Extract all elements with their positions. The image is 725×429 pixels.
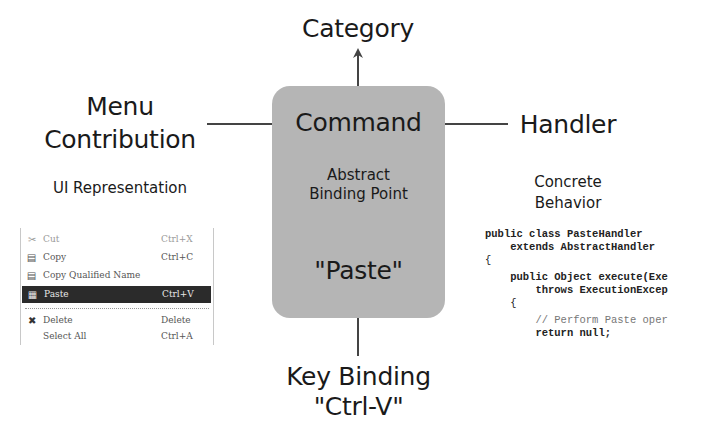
menu-item-copy-qualified-name[interactable]: ▤ Copy Qualified Name xyxy=(21,267,211,284)
code-line: { xyxy=(485,254,725,267)
menu-item-cut[interactable]: ✂ Cut Ctrl+X xyxy=(21,231,211,248)
ui-representation-caption: UI Representation xyxy=(30,178,210,198)
code-line: extends AbstractHandler xyxy=(485,241,725,254)
keybinding-label-line1: Key Binding xyxy=(272,362,445,392)
scissors-icon: ✂ xyxy=(26,234,37,245)
delete-icon: ✖ xyxy=(26,315,37,326)
menu-separator xyxy=(25,308,209,309)
code-comment: // Perform Paste oper xyxy=(485,314,725,327)
menu-label-line1: Menu xyxy=(30,92,210,122)
context-menu: ✂ Cut Ctrl+X ▤ Copy Ctrl+C ▤ Copy Qualif… xyxy=(20,228,214,345)
code-line: { xyxy=(485,297,725,310)
command-subtitle-line2: Binding Point xyxy=(272,184,445,204)
code-line: public class PasteHandler xyxy=(485,228,725,241)
copy-icon: ▤ xyxy=(26,252,37,263)
menu-item-copy[interactable]: ▤ Copy Ctrl+C xyxy=(21,249,211,266)
code-line: public Object execute(Exe xyxy=(485,271,725,284)
handler-code: public class PasteHandler extends Abstra… xyxy=(485,228,725,340)
copy-qualified-icon: ▤ xyxy=(26,270,37,281)
paste-icon: ▦ xyxy=(27,289,38,300)
menu-item-select-all[interactable]: Select All Ctrl+A xyxy=(21,328,211,345)
concrete-caption-line1: Concrete xyxy=(510,172,626,192)
handler-label: Handler xyxy=(510,110,626,140)
keybinding-label-line2: "Ctrl-V" xyxy=(272,392,445,422)
category-label: Category xyxy=(300,14,416,44)
command-title: Command xyxy=(272,108,445,138)
code-line: throws ExecutionExcep xyxy=(485,284,725,297)
command-subtitle-line1: Abstract xyxy=(272,165,445,185)
menu-item-paste[interactable]: ▦ Paste Ctrl+V xyxy=(22,286,211,303)
menu-item-delete[interactable]: ✖ Delete Delete xyxy=(21,312,211,329)
menu-label-line2: Contribution xyxy=(30,125,210,155)
concrete-caption-line2: Behavior xyxy=(510,193,626,213)
command-example: "Paste" xyxy=(272,256,445,286)
code-line: return null; xyxy=(485,327,725,340)
